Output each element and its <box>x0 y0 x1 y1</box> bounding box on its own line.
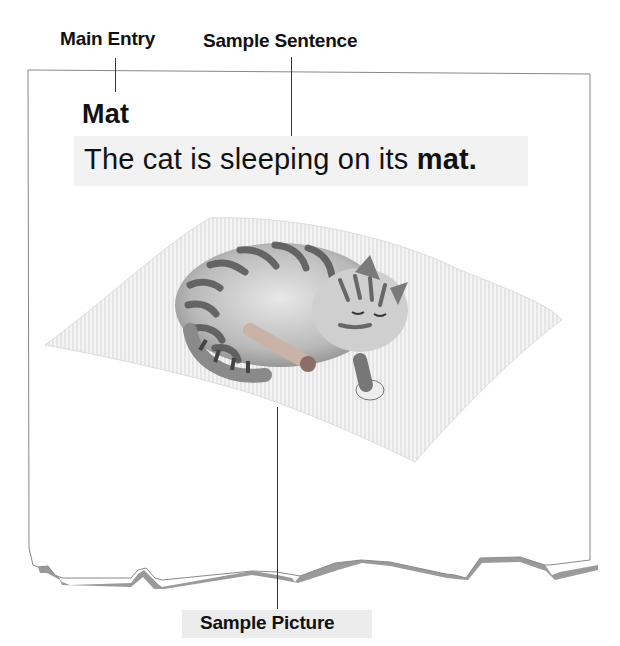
sample-sentence: The cat is sleeping on its mat. <box>84 143 477 176</box>
sample-sentence-text: The cat is sleeping on its <box>84 143 417 175</box>
cat-on-mat-illustration <box>40 210 580 470</box>
leader-line-sample-sentence <box>291 57 292 137</box>
callout-sample-sentence: Sample Sentence <box>203 30 357 52</box>
callout-main-entry: Main Entry <box>60 28 155 50</box>
sample-sentence-emphasis: mat. <box>417 143 477 175</box>
callout-sample-picture: Sample Picture <box>200 612 334 634</box>
headword: Mat <box>82 99 129 130</box>
leader-line-main-entry <box>115 58 116 92</box>
